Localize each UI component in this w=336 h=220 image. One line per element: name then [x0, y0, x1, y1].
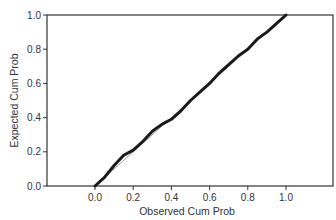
x-tick-label: 0.4 [164, 192, 178, 203]
x-tick-label: 0.6 [203, 192, 217, 203]
x-axis-label: Observed Cum Prob [139, 205, 235, 217]
y-axis-label: Expected Cum Prob [8, 53, 20, 147]
x-tick-label: 0.8 [241, 192, 255, 203]
y-tick-label: 0.2 [27, 146, 41, 157]
y-tick-label: 0.4 [27, 112, 41, 123]
x-tick-label: 0.2 [126, 192, 140, 203]
y-tick-label: 0.0 [27, 181, 41, 192]
pp-plot: 0.00.20.40.60.81.00.00.20.40.60.81.0Obse… [0, 0, 336, 220]
y-tick-label: 0.6 [27, 78, 41, 89]
x-tick-label: 0.0 [88, 192, 102, 203]
x-tick-label: 1.0 [279, 192, 293, 203]
y-tick-label: 1.0 [27, 10, 41, 21]
y-tick-label: 0.8 [27, 44, 41, 55]
